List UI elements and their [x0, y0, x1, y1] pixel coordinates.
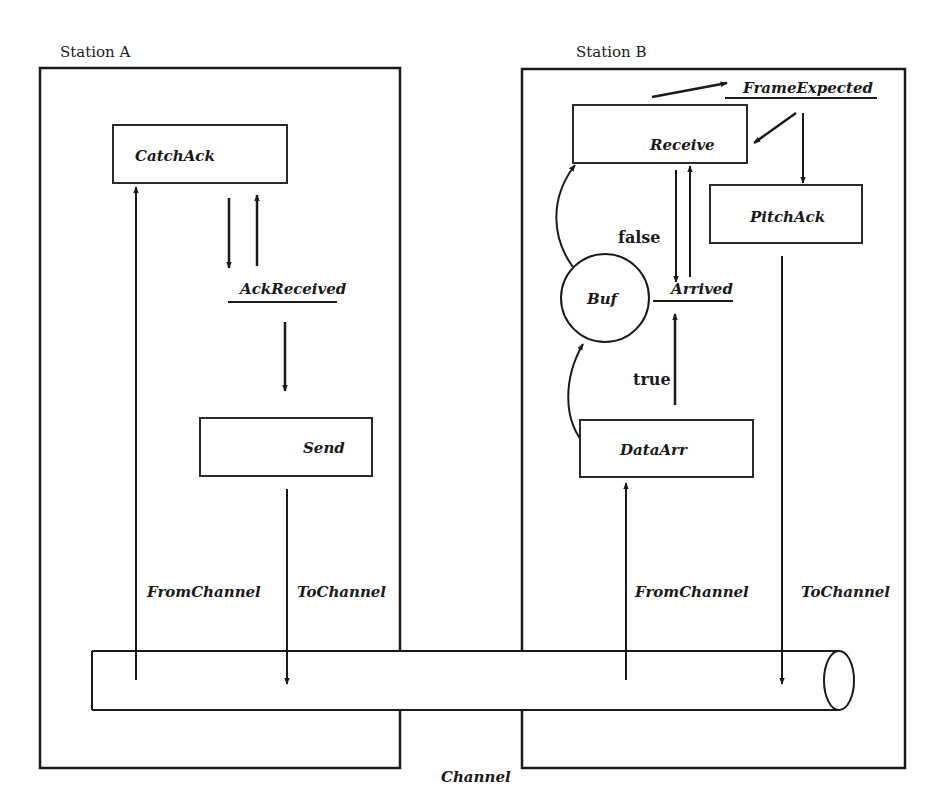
protocol-diagram: Station A Station B Channel CatchAck Ack… [0, 0, 948, 810]
process-catchack-label: CatchAck [135, 147, 215, 165]
store-buf-label: Buf [586, 290, 620, 308]
process-receive-label: Receive [649, 136, 715, 154]
connector-a-to-channel-label: ToChannel [297, 583, 386, 601]
condition-true-label: true [633, 370, 671, 389]
variable-ackreceived: AckReceived [238, 280, 347, 298]
station-b-label: Station B [576, 43, 647, 61]
variable-frameexpected: FrameExpected [742, 79, 873, 97]
process-send [200, 418, 372, 476]
connector-b-to-channel-label: ToChannel [801, 583, 890, 601]
arrow-buf-to-receive [556, 165, 575, 267]
connector-b-from-channel-label: FromChannel [634, 583, 749, 601]
process-dataarr-label: DataArr [619, 441, 688, 459]
process-send-label: Send [303, 439, 345, 457]
process-pitchack-label: PitchAck [749, 208, 825, 226]
channel-label: Channel [441, 768, 511, 786]
condition-false-label: false [618, 228, 661, 247]
station-a-label: Station A [60, 43, 131, 61]
arrow-frameexpected-to-receive [754, 113, 796, 143]
process-receive [573, 105, 747, 163]
connector-a-from-channel-label: FromChannel [146, 583, 261, 601]
variable-arrived: Arrived [669, 280, 733, 298]
arrow-receive-to-frameexpected [652, 83, 727, 97]
channel-pipe [92, 651, 854, 710]
